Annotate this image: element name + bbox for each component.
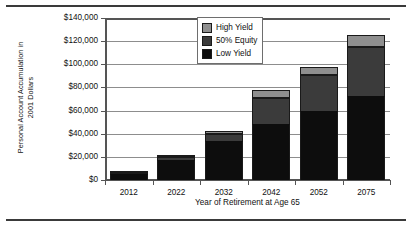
top-divider-rule [6, 5, 406, 7]
bar-segment[interactable] [157, 155, 195, 157]
legend-swatch-icon [202, 36, 212, 46]
bar-segment[interactable] [252, 124, 290, 180]
x-axis-tick [295, 180, 296, 185]
bar-column[interactable] [110, 18, 148, 180]
legend-label: High Yield [216, 23, 253, 32]
x-axis-tick-label: 2075 [339, 188, 393, 197]
y-axis-tick-label: $0 [0, 175, 98, 184]
y-axis-tick-label: $80,000 [0, 82, 98, 91]
x-axis-tick [153, 180, 154, 185]
x-axis-tick-label: 2012 [102, 188, 156, 197]
x-axis-tick [105, 180, 106, 185]
x-axis-tick [390, 180, 391, 185]
y-axis-tick-label: $100,000 [0, 59, 98, 68]
chart-legend: High Yield50% EquityLow Yield [197, 17, 263, 64]
bar-segment[interactable] [205, 131, 243, 133]
bar-segment[interactable] [157, 160, 195, 180]
y-axis-line [105, 18, 107, 180]
bar-column[interactable] [300, 18, 338, 180]
legend-label: 50% Equity [216, 36, 257, 45]
x-axis-tick [200, 180, 201, 185]
legend-swatch-icon [202, 49, 212, 59]
legend-item[interactable]: Low Yield [202, 47, 257, 60]
bar-column[interactable] [347, 18, 385, 180]
bar-column[interactable] [157, 18, 195, 180]
y-axis-tick-label: $140,000 [0, 13, 98, 22]
legend-swatch-icon [202, 23, 212, 33]
bar-segment[interactable] [300, 67, 338, 75]
bar-segment[interactable] [347, 96, 385, 180]
bar-segment[interactable] [157, 157, 195, 160]
chart-figure: Personal Account Accumulation in 2001 Do… [0, 0, 412, 227]
x-axis-tick [343, 180, 344, 185]
bar-segment[interactable] [300, 111, 338, 180]
x-axis-tick-label: 2032 [197, 188, 251, 197]
bar-segment[interactable] [252, 98, 290, 125]
x-axis-tick-label: 2052 [292, 188, 346, 197]
bar-segment[interactable] [205, 134, 243, 141]
bar-segment[interactable] [300, 75, 338, 111]
y-axis-tick-label: $20,000 [0, 152, 98, 161]
y-axis-tick-label: $60,000 [0, 106, 98, 115]
x-axis-tick-label: 2042 [244, 188, 298, 197]
bar-segment[interactable] [347, 47, 385, 96]
y-axis-tick-label: $120,000 [0, 36, 98, 45]
bar-segment[interactable] [252, 90, 290, 98]
bar-segment[interactable] [347, 35, 385, 47]
bottom-divider-rule [6, 219, 406, 221]
legend-item[interactable]: High Yield [202, 21, 257, 34]
legend-item[interactable]: 50% Equity [202, 34, 257, 47]
x-axis-tick-label: 2022 [149, 188, 203, 197]
x-axis-tick [248, 180, 249, 185]
bar-segment[interactable] [110, 173, 148, 174]
bar-segment[interactable] [110, 171, 148, 173]
legend-label: Low Yield [216, 49, 251, 58]
bar-segment[interactable] [205, 141, 243, 180]
x-axis-title: Year of Retirement at Age 65 [105, 198, 390, 207]
y-axis-tick-label: $40,000 [0, 129, 98, 138]
